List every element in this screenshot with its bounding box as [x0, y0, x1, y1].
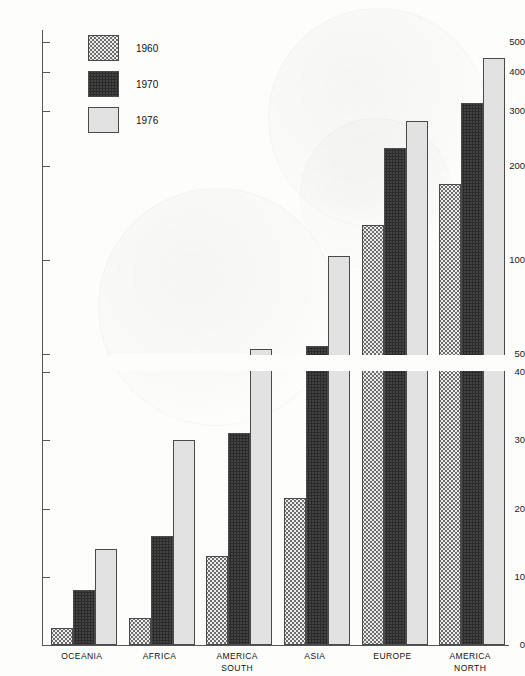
x-axis-label-america-south: AMERICASOUTH [198, 651, 276, 674]
x-axis-label-line: ASIA [276, 651, 354, 663]
bar-asia-1970 [306, 346, 328, 645]
bar-america-north-1970 [461, 103, 483, 645]
legend-label-1960: 1960 [136, 43, 158, 54]
x-axis-label-line: AFRICA [121, 651, 199, 663]
bar-america-north-1960 [439, 184, 461, 645]
x-axis-label-america-north: AMERICANORTH [431, 651, 509, 674]
x-axis-label-line: AMERICA [431, 651, 509, 663]
axis-break-gap [43, 355, 510, 371]
x-axis-label-europe: EUROPE [354, 651, 432, 663]
legend-swatch-1970 [88, 71, 119, 97]
bar-group [284, 30, 350, 645]
bar-asia-1960 [284, 498, 306, 645]
y-tick-mark [43, 645, 50, 646]
bar-oceania-1970 [73, 590, 95, 645]
legend-item-1976: 1976 [88, 102, 158, 138]
bar-america-south-1960 [206, 556, 228, 645]
bar-america-south-1976 [250, 349, 272, 645]
x-axis-line [42, 645, 509, 646]
legend-label-1976: 1976 [136, 115, 158, 126]
bar-europe-1960 [362, 225, 384, 645]
legend-label-1970: 1970 [136, 79, 158, 90]
bar-africa-1960 [129, 618, 151, 645]
x-axis-label-line: OCEANIA [43, 651, 121, 663]
x-axis-label-africa: AFRICA [121, 651, 199, 663]
bar-america-south-1970 [228, 433, 250, 645]
bar-europe-1976 [406, 121, 428, 645]
x-axis-label-asia: ASIA [276, 651, 354, 663]
bar-oceania-1976 [95, 549, 117, 645]
x-axis-label-oceania: OCEANIA [43, 651, 121, 663]
bar-group [362, 30, 428, 645]
x-axis-label-line: AMERICA [198, 651, 276, 663]
bar-group [206, 30, 272, 645]
bar-group [439, 30, 505, 645]
x-axis-label-line: NORTH [431, 663, 509, 675]
bar-america-north-1976 [483, 58, 505, 645]
chart-legend: 196019701976 [88, 30, 158, 138]
bar-asia-1976 [328, 256, 350, 645]
legend-item-1960: 1960 [88, 30, 158, 66]
bar-africa-1970 [151, 536, 173, 645]
legend-item-1970: 1970 [88, 66, 158, 102]
x-axis-label-line: SOUTH [198, 663, 276, 675]
legend-swatch-1960 [88, 35, 119, 61]
legend-swatch-1976 [88, 107, 119, 133]
bar-africa-1976 [173, 440, 195, 645]
bar-europe-1970 [384, 148, 406, 645]
x-axis-label-line: EUROPE [354, 651, 432, 663]
bar-oceania-1960 [51, 628, 73, 645]
bar-chart: 01020304050100200300400500 OCEANIAAFRICA… [0, 0, 525, 676]
